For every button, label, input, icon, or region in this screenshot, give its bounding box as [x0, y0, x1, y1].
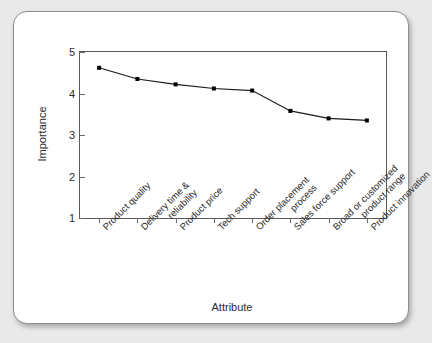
data-series [80, 52, 386, 218]
y-tick-label: 5 [69, 47, 75, 58]
data-point-marker [97, 66, 101, 70]
y-axis-title: Importance [36, 106, 48, 161]
y-tick-label: 1 [69, 213, 75, 224]
data-point-marker [327, 116, 331, 120]
y-tick-mark [80, 218, 85, 219]
plot-area: 12345 Product qualityDelivery time &reli… [79, 51, 387, 219]
data-point-marker [212, 87, 216, 91]
x-tick-mark [290, 218, 291, 223]
x-tick-mark [137, 218, 138, 223]
chart-card: Importance 12345 Product qualityDelivery… [13, 11, 409, 324]
x-tick-mark [329, 218, 330, 223]
chart-figure: Importance 12345 Product qualityDelivery… [14, 12, 410, 325]
data-point-marker [135, 77, 139, 81]
data-point-marker [288, 109, 292, 113]
data-point-marker [365, 118, 369, 122]
x-tick-mark [214, 218, 215, 223]
y-tick-label: 4 [69, 88, 75, 99]
x-tick-mark [367, 218, 368, 223]
y-tick-label: 3 [69, 130, 75, 141]
x-tick-mark [176, 218, 177, 223]
x-tick-mark [99, 218, 100, 223]
y-tick-label: 2 [69, 171, 75, 182]
series-line [99, 68, 367, 121]
x-tick-mark [252, 218, 253, 223]
x-axis-title: Attribute [79, 301, 385, 313]
data-point-marker [174, 82, 178, 86]
data-point-marker [250, 89, 254, 93]
